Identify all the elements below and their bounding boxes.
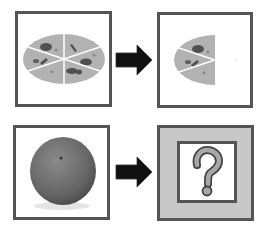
right-arrow-icon bbox=[116, 157, 152, 187]
right-arrow-icon bbox=[116, 45, 152, 75]
orange-icon bbox=[30, 137, 96, 210]
question-mark-icon bbox=[197, 150, 219, 196]
diagram-graphics bbox=[0, 0, 263, 240]
half-pizza-icon bbox=[174, 35, 256, 85]
pizza-icon bbox=[23, 34, 105, 84]
